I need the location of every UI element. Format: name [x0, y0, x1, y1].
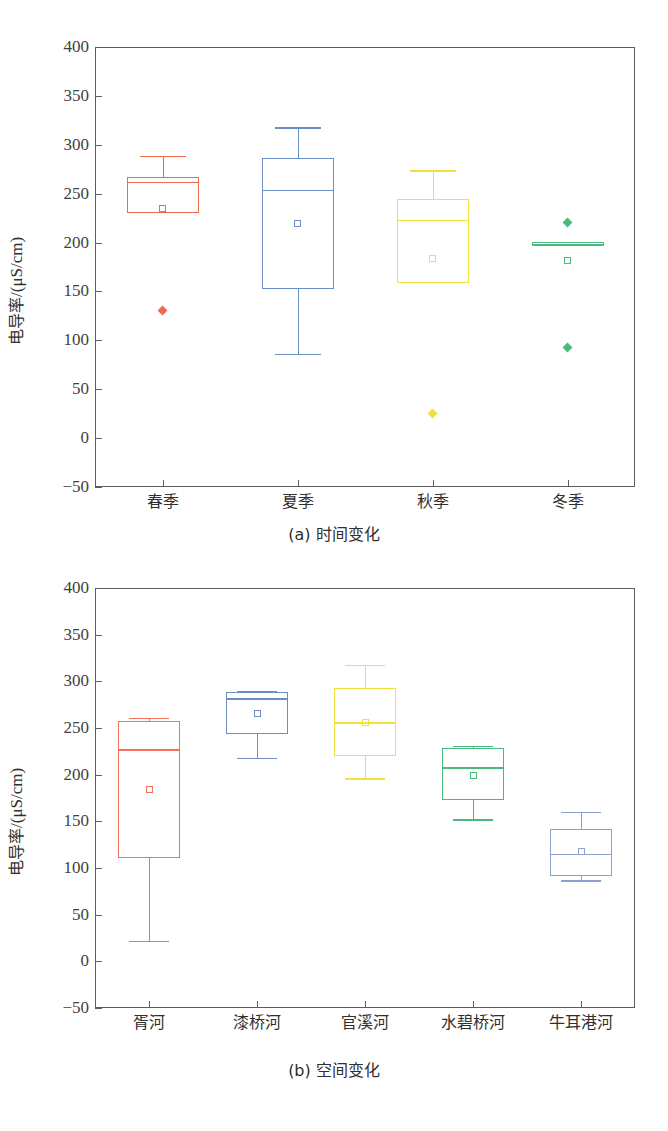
boxplot-chart-b: 400350300250200150100500−50电导率/(μS/cm)胥河… [0, 565, 668, 1131]
x-axis-tick-label: 胥河 [89, 1014, 209, 1032]
boxplot-chart-a: 400350300250200150100500−50电导率/(μS/cm)春季… [0, 0, 668, 565]
y-axis-tick-label: 50 [33, 380, 89, 397]
median-line [532, 244, 604, 245]
whisker-upper-cap [410, 170, 456, 171]
whisker-upper-cap [140, 156, 186, 157]
y-axis-tick-label: 400 [33, 579, 89, 596]
whisker-upper-cap [129, 718, 169, 719]
y-axis-tick-label: 250 [33, 719, 89, 736]
median-line [226, 698, 288, 699]
panel-caption: (a) 时间变化 [0, 525, 668, 545]
y-axis-tick-label: 350 [33, 626, 89, 643]
y-axis-tick [95, 728, 102, 729]
panel-caption: (b) 空间变化 [0, 1061, 668, 1081]
mean-marker [470, 772, 477, 779]
y-axis-tick-label: 150 [33, 282, 89, 299]
x-axis-tick [257, 1001, 258, 1008]
x-axis-tick-label: 秋季 [373, 493, 493, 511]
y-axis-tick-label: 200 [33, 234, 89, 251]
whisker-lower-line [365, 756, 366, 778]
y-axis-tick [95, 588, 102, 589]
y-axis-tick [95, 961, 102, 962]
y-axis-tick-label: 300 [33, 136, 89, 153]
y-axis-tick [95, 487, 102, 488]
mean-marker [294, 220, 301, 227]
y-axis-tick-label: −50 [33, 999, 89, 1016]
y-axis-tick-label: −50 [33, 478, 89, 495]
mean-marker [578, 848, 585, 855]
mean-marker [159, 205, 166, 212]
y-axis-tick [95, 96, 102, 97]
y-axis-tick [95, 1008, 102, 1009]
x-axis-tick [568, 480, 569, 487]
y-axis-tick [95, 438, 102, 439]
y-axis-tick [95, 340, 102, 341]
whisker-lower-cap [345, 778, 385, 779]
x-axis-tick [365, 1001, 366, 1008]
y-axis-tick-label: 100 [33, 331, 89, 348]
whisker-upper-line [365, 665, 366, 688]
y-axis-tick-label: 200 [33, 766, 89, 783]
x-axis-tick [473, 1001, 474, 1008]
figure-panel-a: 400350300250200150100500−50电导率/(μS/cm)春季… [0, 0, 668, 565]
x-axis-tick-label: 水碧桥河 [413, 1014, 533, 1032]
figure-panel-b: 400350300250200150100500−50电导率/(μS/cm)胥河… [0, 565, 668, 1131]
whisker-lower-line [473, 800, 474, 820]
y-axis-tick [95, 291, 102, 292]
median-line [397, 220, 469, 221]
y-axis-tick [95, 389, 102, 390]
whisker-lower-line [257, 734, 258, 758]
whisker-upper-line [433, 170, 434, 198]
x-axis-tick [581, 1001, 582, 1008]
mean-marker [254, 710, 261, 717]
whisker-upper-line [581, 812, 582, 829]
y-axis-tick-label: 300 [33, 672, 89, 689]
y-axis-tick [95, 868, 102, 869]
mean-marker [429, 255, 436, 262]
y-axis-tick [95, 821, 102, 822]
whisker-lower-line [298, 289, 299, 354]
median-line [118, 749, 180, 750]
x-axis-tick-label: 官溪河 [305, 1014, 425, 1032]
whisker-lower-line [149, 858, 150, 941]
box-rect [397, 199, 469, 283]
y-axis-tick-label: 150 [33, 812, 89, 829]
whisker-lower-cap [275, 354, 321, 355]
whisker-upper-cap [345, 665, 385, 666]
median-line [262, 190, 334, 191]
whisker-lower-cap [237, 758, 277, 759]
median-line [442, 767, 504, 768]
plot-frame [95, 47, 635, 487]
whisker-lower-cap [129, 941, 169, 942]
y-axis-label: 电导率/(μS/cm) [7, 237, 26, 345]
x-axis-tick [149, 1001, 150, 1008]
y-axis-tick [95, 915, 102, 916]
x-axis-tick [298, 480, 299, 487]
whisker-lower-cap [561, 880, 601, 881]
x-axis-tick-label: 牛耳港河 [521, 1014, 641, 1032]
y-axis-tick [95, 635, 102, 636]
y-axis-tick [95, 775, 102, 776]
x-axis-tick [433, 480, 434, 487]
mean-marker [564, 257, 571, 264]
page-bottom-note [0, 1112, 668, 1131]
y-axis-tick-label: 0 [33, 429, 89, 446]
x-axis-tick-label: 漆桥河 [197, 1014, 317, 1032]
y-axis-tick-label: 0 [33, 952, 89, 969]
mean-marker [146, 786, 153, 793]
x-axis-tick-label: 春季 [103, 493, 223, 511]
y-axis-tick-label: 50 [33, 906, 89, 923]
y-axis-tick [95, 47, 102, 48]
mean-marker [362, 719, 369, 726]
y-axis-tick [95, 145, 102, 146]
y-axis-tick-label: 250 [33, 185, 89, 202]
whisker-upper-line [163, 156, 164, 178]
whisker-upper-line [298, 127, 299, 158]
whisker-lower-cap [453, 819, 493, 820]
y-axis-tick-label: 400 [33, 38, 89, 55]
median-line [127, 182, 199, 183]
x-axis-tick [163, 480, 164, 487]
y-axis-label: 电导率/(μS/cm) [7, 768, 26, 876]
y-axis-tick-label: 100 [33, 859, 89, 876]
y-axis-tick [95, 681, 102, 682]
